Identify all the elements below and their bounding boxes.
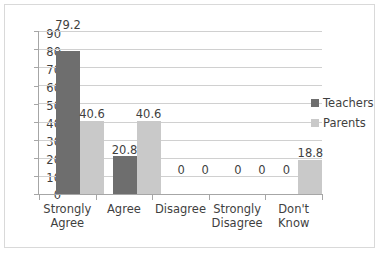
x-category-label-line-2: Disagree: [209, 217, 266, 231]
plot-area: 79.2 40.6 20.8 40.6 0 0 0 0 0 18.8: [39, 31, 322, 194]
bar-parents-agree[interactable]: [137, 121, 161, 195]
x-category-label-line-1: Strongly: [39, 203, 96, 217]
gridline-50: [39, 103, 322, 104]
legend-label-teachers: Teachers: [323, 97, 374, 109]
bar-teachers-agree[interactable]: [113, 156, 137, 194]
gridline-60: [39, 85, 322, 86]
x-category-label-disagree: Disagree: [152, 203, 209, 217]
chart-legend: Teachers Parents: [311, 93, 381, 133]
x-category-label-line-1: Don't: [265, 203, 322, 217]
x-category-label-line-1: Agree: [96, 203, 153, 217]
legend-swatch-icon-parents: [311, 119, 319, 127]
chart-frame: 90 80 70 60 50 40 30 20 10 0: [4, 4, 375, 248]
legend-label-parents: Parents: [323, 117, 366, 129]
x-category-label-line-1: Disagree: [152, 203, 209, 217]
gridline-80: [39, 49, 322, 50]
bar-teachers-strongly-agree[interactable]: [56, 51, 80, 194]
bar-value-teachers-dont-know: 0: [266, 164, 306, 176]
gridline-90: [39, 31, 322, 32]
bar-value-parents-strongly-agree: 40.6: [72, 108, 112, 120]
x-category-label-line-1: Strongly: [209, 203, 266, 217]
bar-parents-strongly-agree[interactable]: [80, 121, 104, 195]
bar-value-teachers-strongly-agree: 79.2: [48, 19, 88, 31]
legend-item-teachers[interactable]: Teachers: [311, 93, 381, 113]
x-category-label-dont-know: Don't Know: [265, 203, 322, 230]
x-category-label-line-2: Agree: [39, 217, 96, 231]
x-category-label-line-2: Know: [265, 217, 322, 231]
bar-value-parents-agree: 40.6: [129, 108, 169, 120]
legend-swatch-icon-teachers: [311, 99, 319, 107]
x-axis-line: [39, 194, 323, 195]
gridline-70: [39, 67, 322, 68]
x-category-label-strongly-disagree: Strongly Disagree: [209, 203, 266, 230]
x-category-label-strongly-agree: Strongly Agree: [39, 203, 96, 230]
bar-value-parents-dont-know: 18.8: [290, 147, 330, 159]
bar-value-teachers-agree: 20.8: [105, 144, 145, 156]
legend-item-parents[interactable]: Parents: [311, 113, 381, 133]
x-category-label-agree: Agree: [96, 203, 153, 217]
